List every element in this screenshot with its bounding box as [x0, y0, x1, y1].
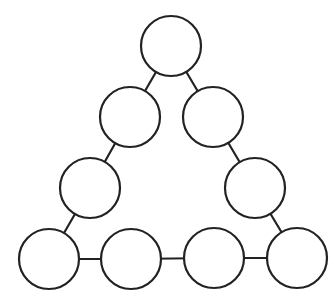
- circle-node-bottom-1: [19, 229, 79, 289]
- circle-node-bottom-2: [101, 229, 161, 289]
- circle-node-bottom-4: [267, 228, 327, 288]
- circle-node-left-upper: [100, 87, 160, 147]
- triangle-circle-diagram: [0, 0, 334, 308]
- circle-node-right-lower: [225, 158, 285, 218]
- circle-nodes: [19, 16, 327, 289]
- circle-node-bottom-3: [184, 228, 244, 288]
- circle-node-right-upper: [183, 87, 243, 147]
- circle-node-left-lower: [60, 158, 120, 218]
- connector-lines: [49, 46, 297, 259]
- circle-node-top: [141, 16, 201, 76]
